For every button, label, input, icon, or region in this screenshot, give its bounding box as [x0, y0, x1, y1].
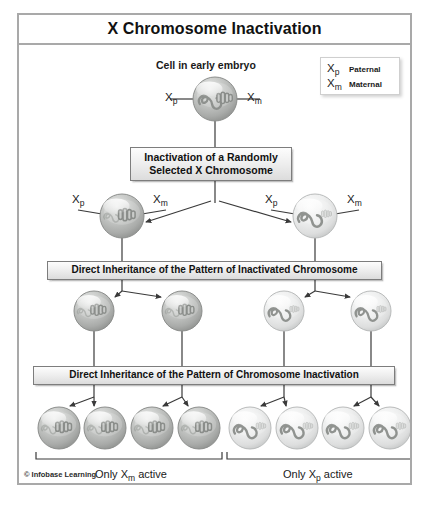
box-direct-inheritance-2: Direct Inheritance of the Pattern of Chr… — [33, 366, 395, 385]
copyright-notice: © Infobase Learning — [24, 470, 96, 479]
top-caption: Cell in early embryo — [156, 59, 256, 71]
figure-frame: X Chromosome Inactivation — [17, 13, 412, 485]
cell-row3-0 — [74, 291, 114, 331]
legend-row-maternal: Xm Maternal — [327, 77, 393, 92]
box-direct-inheritance-1: Direct Inheritance of the Pattern of Ina… — [47, 261, 382, 280]
cell-row3-3 — [351, 291, 391, 331]
figure-title-bar: X Chromosome Inactivation — [19, 15, 410, 45]
box-inactivation: Inactivation of a Randomly Selected X Ch… — [130, 147, 292, 181]
cell-row4-3 — [178, 407, 220, 449]
cell-row4-2 — [131, 407, 173, 449]
cell-row2-0 — [100, 194, 144, 238]
cell-row4-4 — [229, 407, 271, 449]
box-inactivation-line1: Inactivation of a Randomly — [144, 151, 278, 164]
legend-label-maternal: Maternal — [349, 80, 382, 89]
legend-symbol-xm: Xm — [327, 77, 349, 92]
bracket-left — [36, 452, 222, 459]
row1-xp-label: Xp — [165, 91, 177, 106]
cell-row3-1 — [162, 291, 202, 331]
cell-row2-1 — [293, 194, 337, 238]
cell-row1-0 — [193, 77, 237, 121]
bracket-right-caption: Only Xp active — [283, 468, 353, 483]
cell-row4-0 — [38, 407, 80, 449]
legend-box: Xp Paternal Xm Maternal — [320, 57, 400, 95]
bracket-right — [227, 452, 410, 459]
legend-row-paternal: Xp Paternal — [327, 62, 393, 77]
connector-lines — [70, 99, 379, 406]
box-direct-inheritance-1-text: Direct Inheritance of the Pattern of Ina… — [71, 264, 357, 277]
cell-row4-1 — [84, 407, 126, 449]
cell-row4-7 — [369, 407, 410, 449]
figure-root: X Chromosome Inactivation — [0, 0, 429, 512]
box-inactivation-line2: Selected X Chromosome — [144, 164, 278, 177]
box-direct-inheritance-2-text: Direct Inheritance of the Pattern of Chr… — [69, 369, 359, 382]
cell-row4-5 — [276, 407, 318, 449]
row2-right-xp-label: Xp — [265, 193, 277, 208]
bracket-group — [36, 452, 410, 459]
row2-right-xm-label: Xm — [347, 193, 362, 208]
cell-row3-2 — [264, 291, 304, 331]
row2-left-xm-label: Xm — [153, 193, 168, 208]
row1-xm-label: Xm — [247, 91, 262, 106]
cell-row4-6 — [322, 407, 364, 449]
legend-label-paternal: Paternal — [349, 65, 381, 74]
diagram-canvas: Cell in early embryo Xp Xm Xp Xm Xp Xm — [19, 45, 410, 483]
bracket-left-caption: Only Xm active — [95, 468, 167, 483]
legend-symbol-xp: Xp — [327, 62, 349, 77]
row2-left-xp-label: Xp — [72, 193, 84, 208]
page-title: X Chromosome Inactivation — [107, 20, 321, 38]
